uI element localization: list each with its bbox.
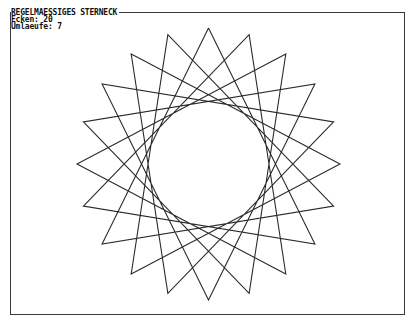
- star-polygon: [77, 28, 340, 300]
- star-polygon-canvas: [0, 0, 418, 327]
- graphics-screen: REGELMAESSIGES STERNECK Ecken: 20 Umlaeu…: [0, 0, 418, 327]
- umlaeufe-label: Umlaeufe:: [11, 22, 53, 31]
- umlaeufe-value: 7: [57, 22, 62, 31]
- umlaeufe-line: Umlaeufe: 7: [11, 23, 117, 30]
- info-text-block: REGELMAESSIGES STERNECK Ecken: 20 Umlaeu…: [11, 9, 119, 30]
